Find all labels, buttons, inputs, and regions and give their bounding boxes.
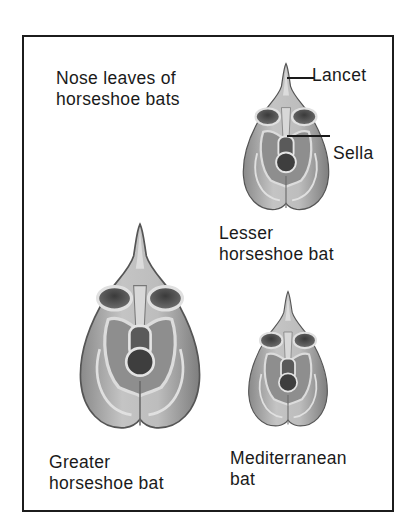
mediterranean-label-line-2: bat (230, 469, 347, 490)
lancet-label: Lancet (312, 65, 366, 86)
greater-label-line-2: horseshoe bat (49, 473, 164, 494)
sella-leader-line (287, 135, 330, 137)
lesser-horseshoe-bat-label: Lesser horseshoe bat (219, 223, 334, 265)
mediterranean-bat-label: Mediterranean bat (230, 448, 347, 490)
lancet-leader-line (287, 77, 314, 79)
greater-horseshoe-bat-label: Greater horseshoe bat (49, 452, 164, 494)
greater-label-line-1: Greater (49, 452, 164, 473)
mediterranean-bat-noseleaf-illustration (246, 290, 330, 430)
figure-title-line-2: horseshoe bats (56, 89, 180, 110)
greater-horseshoe-noseleaf-illustration (76, 222, 204, 434)
figure-title: Nose leaves of horseshoe bats (56, 68, 180, 110)
mediterranean-label-line-1: Mediterranean (230, 448, 347, 469)
lesser-label-line-2: horseshoe bat (219, 244, 334, 265)
lesser-label-line-1: Lesser (219, 223, 334, 244)
figure-title-line-1: Nose leaves of (56, 68, 180, 89)
sella-label: Sella (333, 143, 373, 164)
